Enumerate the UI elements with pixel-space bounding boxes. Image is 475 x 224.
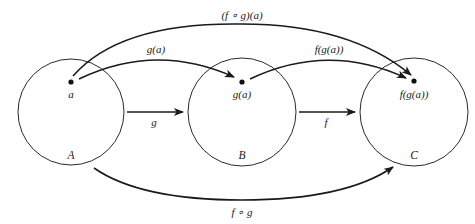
set-b-label: B xyxy=(238,149,245,161)
point-f-of-g-of-a-label: f(g(a)) xyxy=(400,88,429,101)
set-c-label: C xyxy=(410,149,418,161)
point-a-label: a xyxy=(68,88,74,100)
composition-diagram: a g(a) f(g(a)) A B C g f g(a) f(g(a)) (f… xyxy=(0,0,475,224)
arrow-g-of-a-to-f-of-g-of-a-label: f(g(a)) xyxy=(315,43,344,56)
point-g-of-a-label: g(a) xyxy=(233,88,252,101)
arrow-composition-point-label: (f ∘ g)(a) xyxy=(221,9,263,22)
arrow-composition-set xyxy=(94,167,393,200)
point-a xyxy=(68,79,73,84)
arrow-g-label: g xyxy=(151,116,157,128)
arrow-a-to-g-of-a xyxy=(79,60,234,79)
arrow-g-of-a-to-f-of-g-of-a xyxy=(250,60,406,79)
arrow-composition-point xyxy=(73,24,411,76)
point-g-of-a xyxy=(239,79,244,84)
arrow-f-label: f xyxy=(324,116,329,128)
point-f-of-g-of-a xyxy=(411,78,416,83)
set-a-label: A xyxy=(66,149,75,161)
arrow-composition-set-label: f ∘ g xyxy=(231,206,253,218)
arrow-a-to-g-of-a-label: g(a) xyxy=(147,43,166,56)
